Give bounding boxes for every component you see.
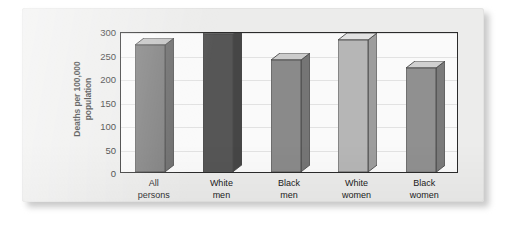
bar-side-face: [368, 33, 377, 172]
bar-shape: [135, 38, 174, 172]
bar-shape: [271, 53, 310, 172]
bar-front-face: [338, 40, 368, 172]
y-axis-tick-label: 50: [82, 144, 116, 155]
bar-side-face: [233, 33, 242, 172]
bar-front-face: [406, 68, 436, 172]
x-axis-tick-label: White women: [323, 178, 391, 201]
x-axis-tick-label: All persons: [120, 178, 188, 201]
y-axis-tick-label: 300: [82, 27, 116, 38]
y-axis-tick-label: 100: [82, 121, 116, 132]
bar: [203, 33, 242, 172]
bar-shape: [203, 33, 242, 172]
y-axis-tick-label: 150: [82, 97, 116, 108]
y-axis-tick-label: 0: [82, 168, 116, 179]
y-axis-tick-label: 250: [82, 50, 116, 61]
bar-shape: [406, 61, 445, 172]
plot-area: [120, 32, 458, 173]
y-axis-tick-labels: 050100150200250300: [80, 32, 116, 173]
bar-side-face: [436, 61, 445, 172]
bar: [338, 33, 377, 172]
bar-side-face: [165, 38, 174, 172]
scanned-page: Deaths per 100,000 population 0501001502…: [0, 0, 506, 232]
figure-card: Deaths per 100,000 population 0501001502…: [22, 8, 484, 202]
bar-front-face: [135, 45, 165, 172]
x-axis-tick-label: Black women: [390, 178, 458, 201]
bar-front-face: [271, 60, 301, 172]
gridline: [121, 33, 457, 34]
bar: [271, 53, 310, 172]
bar: [406, 61, 445, 172]
bar: [135, 38, 174, 172]
y-axis-tick-label: 200: [82, 74, 116, 85]
plot-inner: [121, 33, 457, 172]
bar-side-face: [301, 53, 310, 172]
bar-shape: [338, 33, 377, 172]
x-axis-tick-label: White men: [188, 178, 256, 201]
bar-front-face: [203, 34, 233, 172]
x-axis-tick-label: Black men: [255, 178, 323, 201]
x-axis-tick-labels: All personsWhite menBlack menWhite women…: [120, 178, 458, 204]
